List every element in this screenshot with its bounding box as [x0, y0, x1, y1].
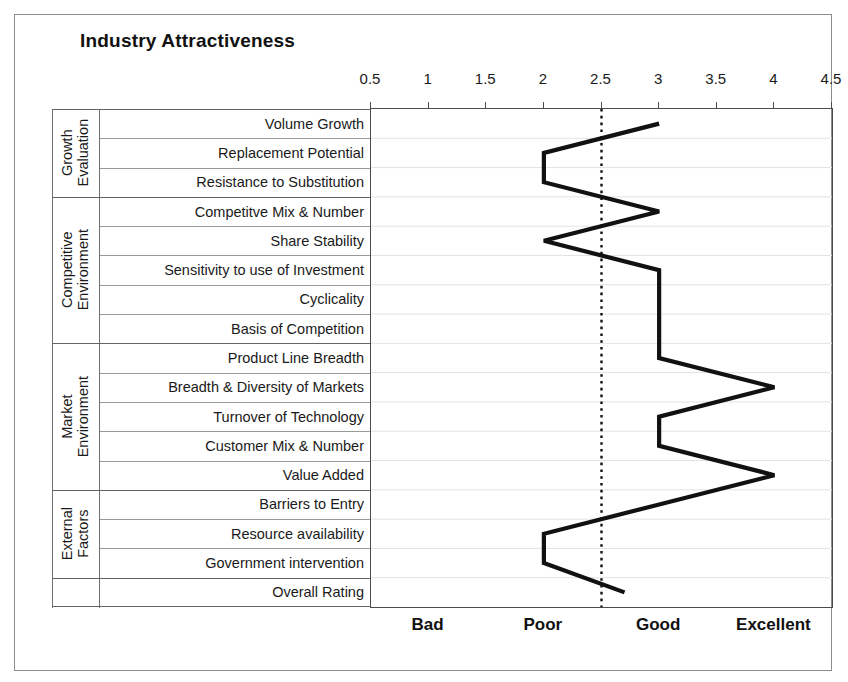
chart-page: Industry Attractiveness 0.511.522.533.54…	[0, 0, 848, 682]
row-label: Turnover of Technology	[100, 402, 371, 431]
top-tick-mark	[773, 102, 774, 109]
row-label-column: GrowthEvaluationCompetitiveEnvironmentMa…	[52, 109, 370, 608]
group-label: MarketEnvironment	[60, 376, 91, 457]
bottom-scale-label: Bad	[412, 615, 444, 635]
top-tick-label: 1.5	[475, 70, 496, 87]
top-axis-tick-labels: 0.511.522.533.544.5	[370, 70, 833, 92]
top-tick-mark	[601, 102, 602, 109]
row-label: Government intervention	[100, 548, 371, 577]
row-separator	[100, 373, 371, 374]
row-separator	[53, 343, 371, 344]
row-label: Replacement Potential	[100, 138, 371, 167]
top-tick-label: 2.5	[590, 70, 611, 87]
row-label: Overall Rating	[100, 578, 371, 607]
top-tick-label: 4.5	[821, 70, 842, 87]
row-label: Sensitivity to use of Investment	[100, 255, 371, 284]
bottom-scale-label: Poor	[524, 615, 563, 635]
row-label: Breadth & Diversity of Markets	[100, 373, 371, 402]
bottom-scale-labels: BadPoorGoodExcellent	[370, 615, 833, 641]
group-band: CompetitiveEnvironment	[53, 197, 99, 343]
top-tick-mark	[428, 102, 429, 109]
row-separator	[100, 402, 371, 403]
top-tick-mark	[658, 102, 659, 109]
row-label: Cyclicality	[100, 285, 371, 314]
group-label-line: Growth	[60, 119, 76, 187]
row-separator	[100, 548, 371, 549]
group-label-line: Competitive	[60, 229, 76, 310]
row-label: Product Line Breadth	[100, 343, 371, 372]
page-title: Industry Attractiveness	[80, 30, 295, 52]
top-tick-label: 3.5	[705, 70, 726, 87]
row-separator	[53, 197, 371, 198]
row-label: Basis of Competition	[100, 314, 371, 343]
row-label: Resistance to Substitution	[100, 168, 371, 197]
bottom-scale-label: Excellent	[736, 615, 811, 635]
top-tick-mark	[485, 102, 486, 109]
group-label-line: Evaluation	[76, 119, 92, 187]
row-label: Volume Growth	[100, 109, 371, 138]
group-label-line: Market	[60, 376, 76, 457]
group-label: GrowthEvaluation	[60, 119, 91, 187]
row-separator	[100, 314, 371, 315]
group-band	[53, 578, 99, 607]
row-label: Barriers to Entry	[100, 490, 371, 519]
top-tick-label: 4	[769, 70, 777, 87]
ratings-grid: GrowthEvaluationCompetitiveEnvironmentMa…	[52, 109, 833, 608]
row-separator	[53, 490, 371, 491]
top-tick-mark	[370, 102, 371, 109]
row-separator	[100, 226, 371, 227]
group-band: MarketEnvironment	[53, 343, 99, 489]
top-tick-mark	[831, 102, 832, 109]
group-label-line: Factors	[76, 507, 92, 560]
group-label: CompetitiveEnvironment	[60, 229, 91, 310]
group-band: GrowthEvaluation	[53, 109, 99, 197]
group-label-line: Environment	[76, 229, 92, 310]
row-separator	[100, 461, 371, 462]
plot-area	[370, 109, 833, 608]
row-label: Competitve Mix & Number	[100, 197, 371, 226]
top-tick-label: 1	[423, 70, 431, 87]
top-tick-mark	[716, 102, 717, 109]
row-separator	[100, 168, 371, 169]
row-separator	[100, 285, 371, 286]
top-tick-mark	[543, 102, 544, 109]
row-separator	[53, 578, 371, 579]
row-label: Value Added	[100, 461, 371, 490]
row-label: Resource availability	[100, 519, 371, 548]
rating-line-svg	[371, 109, 832, 607]
group-label-line: Environment	[76, 376, 92, 457]
top-tick-label: 0.5	[360, 70, 381, 87]
row-separator	[100, 431, 371, 432]
row-separator	[100, 255, 371, 256]
row-label: Customer Mix & Number	[100, 431, 371, 460]
row-separator	[100, 138, 371, 139]
row-label: Share Stability	[100, 226, 371, 255]
top-tick-label: 3	[654, 70, 662, 87]
bottom-scale-label: Good	[636, 615, 680, 635]
group-label-line: External	[60, 507, 76, 560]
grid-bottom-border	[53, 606, 371, 607]
top-tick-label: 2	[539, 70, 547, 87]
grid-top-border	[53, 109, 371, 110]
rating-polyline	[544, 124, 775, 593]
group-band: ExternalFactors	[53, 490, 99, 578]
row-separator	[100, 519, 371, 520]
group-label: ExternalFactors	[60, 507, 91, 560]
